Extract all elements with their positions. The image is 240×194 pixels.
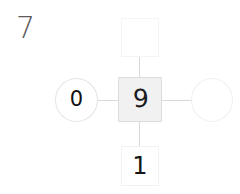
node-bottom-value: 1 [132,154,147,178]
connector-line-left [96,100,120,101]
node-right-circle[interactable] [191,78,233,122]
problem-number-label: 7 [16,8,35,48]
number-bond-diagram: 7 0 9 1 [0,0,240,194]
node-top-square[interactable] [121,18,159,57]
node-bottom-square[interactable]: 1 [121,146,159,186]
node-center-square[interactable]: 9 [118,77,162,122]
connector-line-right [161,100,193,101]
node-left-value: 0 [70,89,83,110]
connector-line-bottom [139,121,140,146]
node-left-circle[interactable]: 0 [55,78,98,122]
node-center-value: 9 [133,86,150,112]
connector-line-top [139,56,140,77]
